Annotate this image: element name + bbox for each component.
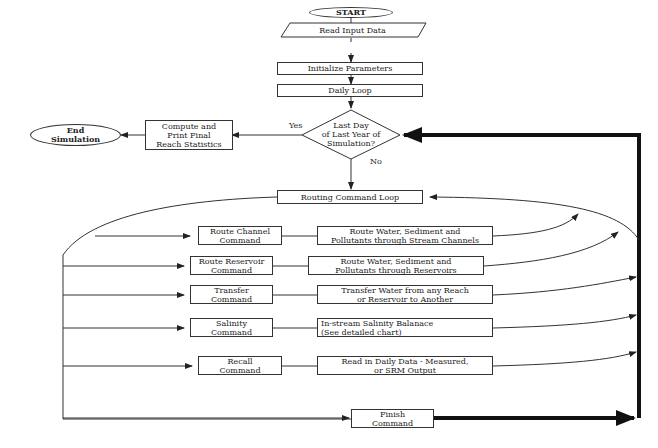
no-label: No	[370, 157, 382, 166]
yes-label: Yes	[289, 121, 302, 130]
start-label: START	[336, 8, 366, 17]
transfer-description: Transfer Water from any Reachor Reservoi…	[317, 285, 493, 304]
read-input-shape	[283, 42, 432, 53]
initialize-parameters: Initialize Parameters	[277, 62, 423, 75]
routing-command-loop: Routing Command Loop	[277, 190, 423, 204]
route-channel-description: Route Water, Sediment andPollutants thro…	[317, 226, 493, 245]
route-reservoir-description: Route Water, Sediment andPollutants thro…	[308, 256, 484, 275]
recall-command: RecallCommand	[198, 356, 282, 375]
salinity-command: SalinityCommand	[190, 318, 273, 337]
salinity-description: In-stream Salinity Balanace(See detailed…	[317, 318, 493, 337]
finish-command: FinishCommand	[351, 409, 434, 428]
end-simulation-terminal: End Simulation	[30, 124, 121, 146]
decision-last-day: Last Day of Last Year of Simulation?	[312, 118, 390, 150]
transfer-command: TransferCommand	[190, 285, 273, 304]
daily-loop: Daily Loop	[277, 84, 423, 97]
route-reservoir-command: Route ReservoirCommand	[190, 256, 273, 275]
read-input-data: Read Input Data	[285, 23, 420, 37]
recall-description: Read in Daily Data - Measured,or SRM Out…	[317, 356, 493, 375]
route-channel-command: Route ChannelCommand	[198, 226, 282, 245]
start-terminal: START	[309, 7, 393, 18]
compute-final-statistics: Compute and Print Final Reach Statistics	[145, 120, 233, 150]
